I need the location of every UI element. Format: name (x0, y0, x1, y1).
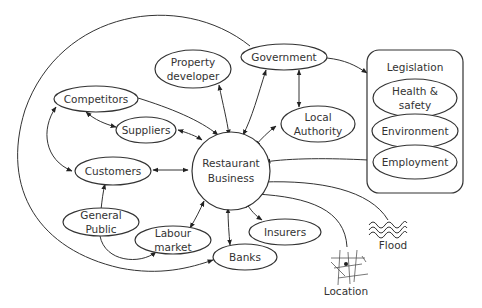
general-public-line2: Public (85, 223, 116, 235)
node-property-developer: Property developer (155, 50, 231, 88)
flood-label: Flood (379, 239, 407, 251)
health-safety-line2: safety (399, 99, 431, 111)
edge-legislation-restaurant (265, 159, 368, 162)
legislation-group: Legislation Health & safety Environment … (367, 50, 463, 193)
insurers-label: Insurers (264, 226, 306, 238)
edge-government-legislation (327, 58, 367, 73)
node-local-authority: Local Authority (281, 106, 355, 142)
labour-market-line1: Labour (155, 227, 192, 239)
node-labour-market: Labour market (135, 226, 211, 254)
map-icon (331, 250, 368, 285)
legislation-item-environment: Environment (372, 114, 458, 148)
local-authority-line1: Local (304, 111, 331, 123)
labour-market-line2: market (154, 241, 191, 253)
environment-label: Environment (381, 125, 448, 137)
node-competitors: Competitors (54, 86, 138, 112)
general-public-line1: General (80, 209, 121, 221)
employment-label: Employment (382, 156, 449, 168)
customers-label: Customers (85, 165, 141, 177)
local-authority-line2: Authority (294, 125, 343, 137)
government-label: Government (251, 51, 316, 63)
edge-government-restaurant (243, 70, 266, 135)
node-location: Location (324, 250, 368, 297)
legislation-item-employment: Employment (373, 145, 457, 179)
edge-public-customers (101, 184, 105, 210)
node-government: Government (241, 44, 327, 70)
edge-banks-restaurant (228, 208, 230, 245)
suppliers-label: Suppliers (122, 124, 171, 136)
health-safety-line1: Health & (392, 85, 438, 97)
edge-suppliers-restaurant (178, 130, 202, 140)
edge-competitors-customers (47, 107, 72, 171)
edge-property-restaurant (219, 85, 229, 135)
restaurant-label-line1: Restaurant (202, 157, 259, 169)
node-insurers: Insurers (249, 219, 321, 245)
location-label: Location (324, 285, 368, 297)
waves-icon (369, 221, 407, 238)
node-flood: Flood (369, 221, 407, 251)
edge-competitors-suppliers (86, 112, 116, 127)
property-developer-line1: Property (171, 56, 215, 68)
node-customers: Customers (75, 157, 151, 185)
node-general-public: General Public (63, 208, 139, 236)
property-developer-line2: developer (167, 70, 220, 82)
edge-labour-restaurant (190, 201, 204, 228)
node-restaurant-business: Restaurant Business (192, 132, 270, 210)
node-banks: Banks (213, 244, 277, 270)
restaurant-label-line2: Business (208, 172, 254, 184)
legislation-title: Legislation (387, 61, 444, 73)
competitors-label: Competitors (64, 93, 128, 105)
node-suppliers: Suppliers (116, 117, 176, 143)
legislation-item-health-safety: Health & safety (373, 79, 457, 117)
banks-label: Banks (229, 251, 261, 263)
restaurant-business-environment-diagram: Restaurant Business Property developer G… (0, 0, 482, 308)
